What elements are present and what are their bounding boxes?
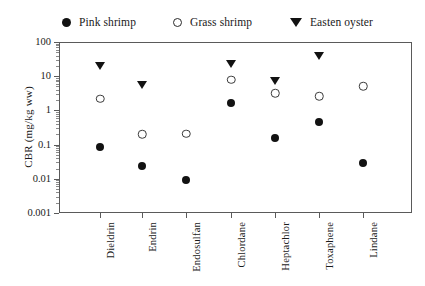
y-axis-tick-minor [56,148,59,149]
filled-circle-marker-icon [271,134,279,142]
y-axis-tick-minor [56,45,59,46]
y-axis-tick-minor [56,121,59,122]
y-axis-tick-minor [56,81,59,82]
x-axis-tick [231,213,232,218]
legend-entry-grass-shrimp[interactable]: Grass shrimp [173,12,252,32]
datapoint-easten-oyster-dieldrin [95,62,105,70]
x-axis-tick-label-endosulfan: Endosulfan [191,222,202,272]
datapoint-grass-shrimp-lindane [359,82,368,91]
plot-area: 1001010.10.010.001 [59,42,412,213]
open-circle-marker-icon [227,75,236,84]
y-axis-tick-minor [56,100,59,101]
y-axis-tick-minor [56,86,59,87]
legend-label: Grass shrimp [190,12,252,32]
open-circle-marker-icon [359,82,368,91]
y-axis-tick-label: 0.01 [33,174,51,184]
y-axis-tick-minor [56,186,59,187]
datapoint-grass-shrimp-chlordane [227,75,236,84]
y-axis-tick-label: 0.1 [38,140,51,150]
y-axis-tick-label: 0.001 [27,208,51,218]
y-axis-tick-minor [56,66,59,67]
datapoint-grass-shrimp-heptachlor [271,89,280,98]
y-axis-tick-minor [56,90,59,91]
legend-label: Pink shrimp [79,12,136,32]
y-axis-tick-major [54,213,59,214]
y-axis-tick-minor [56,158,59,159]
datapoint-pink-shrimp-endrin [138,162,146,170]
x-axis-tick-label-heptachlor: Heptachlor [280,222,291,271]
x-axis-tick-label-lindane: Lindane [368,222,379,258]
y-axis-tick-minor [56,169,59,170]
legend-label: Easten oyster [310,12,373,32]
open-circle-marker-icon [271,89,280,98]
datapoint-easten-oyster-chlordane [226,60,236,68]
y-axis-tick-minor [56,44,59,45]
datapoint-pink-shrimp-lindane [359,159,367,167]
y-axis-tick-minor [56,182,59,183]
x-axis-tick [142,213,143,218]
open-circle-marker-icon [96,94,105,103]
datapoint-pink-shrimp-toxaphene [315,118,323,126]
y-axis-tick-minor [56,52,59,53]
legend-entry-pink-shrimp[interactable]: Pink shrimp [62,12,136,32]
triangle-down-marker-icon [290,18,302,27]
y-axis-tick-minor [56,155,59,156]
datapoint-grass-shrimp-endrin [138,130,147,139]
open-circle-marker-icon [182,129,191,138]
filled-circle-marker-icon [227,99,235,107]
y-axis-tick-minor [56,50,59,51]
triangle-down-marker-icon [226,60,236,68]
datapoint-pink-shrimp-endosulfan [182,176,190,184]
filled-circle-marker-icon [359,159,367,167]
legend-entry-easten-oyster[interactable]: Easten oyster [290,12,373,32]
datapoint-easten-oyster-heptachlor [270,77,280,85]
triangle-down-marker-icon [95,62,105,70]
datapoint-pink-shrimp-heptachlor [271,134,279,142]
y-axis-tick-minor [56,78,59,79]
x-axis-tick-label-dieldrin: Dieldrin [105,222,116,259]
chart-legend: Pink shrimpGrass shrimpEasten oyster [0,12,425,32]
x-axis-tick [319,213,320,218]
y-axis-tick-minor [56,146,59,147]
open-circle-marker-icon [138,130,147,139]
y-axis-tick-minor [56,197,59,198]
open-circle-marker-icon [315,92,324,101]
x-axis-tick-label-endrin: Endrin [147,222,158,252]
filled-circle-marker-icon [62,18,71,27]
datapoint-pink-shrimp-dieldrin [96,143,104,151]
datapoint-easten-oyster-toxaphene [314,52,324,60]
x-axis-tick [275,213,276,218]
y-axis-tick-minor [56,162,59,163]
y-axis-tick-minor [56,112,59,113]
y-axis-tick-minor [56,203,59,204]
chart-figure: Pink shrimpGrass shrimpEasten oyster CBR… [0,0,425,286]
y-axis-tick-minor [56,128,59,129]
filled-circle-marker-icon [315,118,323,126]
y-axis-tick-minor [56,80,59,81]
x-axis-tick-label-toxaphene: Toxaphene [324,222,335,270]
y-axis-tick-minor [56,189,59,190]
datapoint-grass-shrimp-toxaphene [315,92,324,101]
y-axis-tick-minor [56,84,59,85]
y-axis-tick-minor [56,134,59,135]
y-axis-tick-label: 100 [35,37,51,47]
y-axis-tick-label: 10 [41,71,52,81]
y-axis-tick-minor [56,56,59,57]
y-axis-tick-label: 1 [46,105,51,115]
filled-circle-marker-icon [138,162,146,170]
y-axis-tick-minor [56,150,59,151]
y-axis-tick-minor [56,124,59,125]
y-axis-tick-minor [56,47,59,48]
y-axis-tick-minor [56,60,59,61]
datapoint-easten-oyster-endrin [137,81,147,89]
filled-circle-marker-icon [96,143,104,151]
x-axis-tick-label-chlordane: Chlordane [236,222,247,268]
y-axis-tick-minor [56,184,59,185]
y-axis-tick-minor [56,114,59,115]
y-axis-title: CBR (mg/kg ww) [22,86,34,168]
datapoint-grass-shrimp-dieldrin [96,94,105,103]
y-axis-tick-minor [56,116,59,117]
y-axis-tick-minor [56,192,59,193]
x-axis-labels: DieldrinEndrinEndosulfanChlordaneHeptach… [59,222,412,286]
x-axis-tick [100,213,101,218]
